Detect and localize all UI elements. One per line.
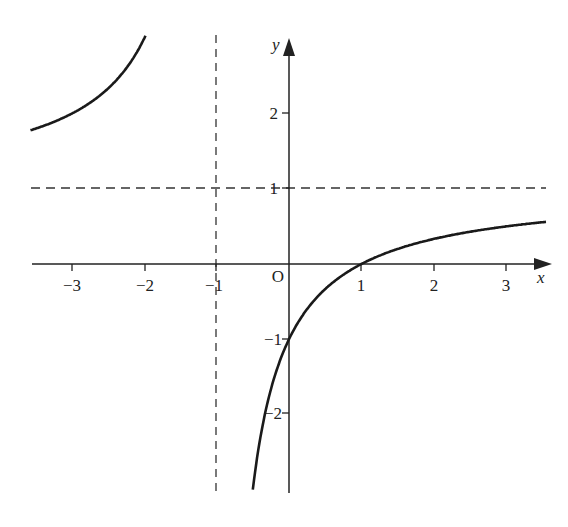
- x-tick-label: −3: [63, 276, 81, 295]
- x-tick-label: −1: [205, 276, 223, 295]
- y-tick-label: −1: [264, 330, 282, 349]
- x-tick-labels: −3 −2 −1 1 2 3: [63, 276, 510, 295]
- y-tick-label: 1: [270, 179, 279, 198]
- x-tick-label: 2: [430, 276, 439, 295]
- x-tick-label: 1: [357, 276, 366, 295]
- x-tick-label: −2: [136, 276, 154, 295]
- graph: −3 −2 −1 1 2 3 2 1 −1 −2 O x y: [0, 0, 568, 527]
- curve-right-branch: [253, 222, 546, 490]
- y-axis-label: y: [270, 35, 280, 54]
- x-axis-label: x: [536, 268, 545, 287]
- y-tick-label: 2: [270, 104, 279, 123]
- y-axis-arrow-icon: [283, 38, 295, 56]
- curve-left-branch: [31, 36, 146, 131]
- origin-label: O: [272, 267, 284, 286]
- y-ticks: [282, 113, 289, 413]
- x-tick-label: 3: [502, 276, 511, 295]
